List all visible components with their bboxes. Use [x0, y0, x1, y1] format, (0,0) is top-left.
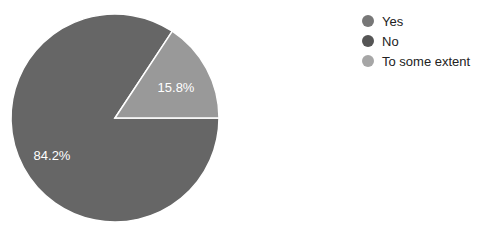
legend-dot-icon — [362, 35, 374, 47]
legend: Yes No To some extent — [362, 11, 470, 71]
legend-item-no[interactable]: No — [362, 31, 470, 51]
slice-label-to-some-extent: 15.8% — [158, 80, 195, 95]
legend-dot-icon — [362, 15, 374, 27]
slice-label-yes: 84.2% — [34, 148, 71, 163]
legend-dot-icon — [362, 55, 374, 67]
legend-label: To some extent — [382, 54, 470, 69]
legend-label: No — [382, 34, 399, 49]
legend-item-yes[interactable]: Yes — [362, 11, 470, 31]
legend-label: Yes — [382, 14, 403, 29]
pie-chart: 15.8% 84.2% — [0, 0, 240, 230]
legend-item-to-some-extent[interactable]: To some extent — [362, 51, 470, 71]
